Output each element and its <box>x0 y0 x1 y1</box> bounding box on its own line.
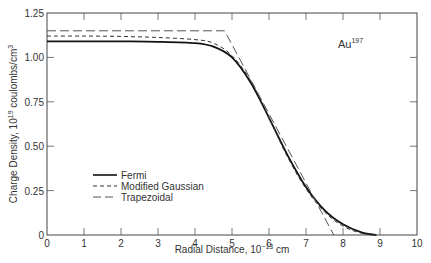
x-tick-label: 7 <box>303 238 309 249</box>
legend-modified-gaussian-label: Modified Gaussian <box>121 181 204 192</box>
x-tick-label: 2 <box>118 238 124 249</box>
plot-border <box>47 13 417 235</box>
x-tick-label: 3 <box>155 238 161 249</box>
x-tick-label: 8 <box>340 238 346 249</box>
x-tick-label: 1 <box>81 238 87 249</box>
y-tick-label: 0.50 <box>25 141 45 152</box>
y-tick-label: 0.25 <box>25 186 45 197</box>
series-fermi <box>47 41 376 235</box>
series-trapezoidal <box>47 31 334 235</box>
x-tick-label: 9 <box>377 238 383 249</box>
y-tick-label: 1.00 <box>25 52 45 63</box>
legend-fermi-label: Fermi <box>121 170 147 181</box>
x-tick-label: 0 <box>44 238 50 249</box>
x-tick-label: 10 <box>411 238 423 249</box>
x-axis-label: Radial Distance, 10−13 cm <box>175 243 290 255</box>
nucleus-annotation: Au197 <box>338 37 363 50</box>
plot-frame <box>47 13 417 235</box>
data-series <box>47 31 376 235</box>
series-modified-gaussian <box>47 36 376 235</box>
y-tick-label: 0.75 <box>25 97 45 108</box>
y-axis-label: Charge Density, 1019 coulombs/cm3 <box>7 45 19 203</box>
axis-ticks: 01234567891000.250.500.751.001.25 <box>25 8 423 249</box>
y-tick-label: 1.25 <box>25 8 45 19</box>
charge-density-chart: 01234567891000.250.500.751.001.25 Fermi … <box>0 0 431 263</box>
y-tick-label: 0 <box>38 230 44 241</box>
legend-trapezoidal-label: Trapezoidal <box>121 192 173 203</box>
legend: Fermi Modified Gaussian Trapezoidal <box>93 170 204 203</box>
